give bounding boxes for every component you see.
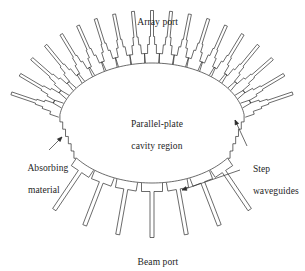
step-waveguide bbox=[219, 44, 259, 90]
step-waveguide bbox=[31, 58, 76, 99]
step-waveguide bbox=[44, 44, 84, 90]
cavity-region-text-line2: cavity region bbox=[131, 141, 182, 151]
cavity-region-label: Parallel-plate cavity region bbox=[100, 108, 204, 163]
cavity-region-text-line1: Parallel-plate bbox=[131, 119, 183, 129]
beam-port-label: Beam port bbox=[113, 246, 193, 271]
beam-port-waveguide bbox=[190, 171, 221, 226]
beam-port-waveguide bbox=[83, 171, 114, 226]
beam-port-text: Beam port bbox=[138, 257, 179, 267]
step-waveguide bbox=[228, 58, 273, 99]
step-waveguides-text-line2: waveguides bbox=[253, 186, 299, 196]
step-waveguides-label: Step waveguides bbox=[243, 153, 305, 208]
beam-port-waveguide bbox=[142, 183, 163, 238]
step-waveguides-upper-arrowhead bbox=[235, 120, 239, 125]
absorbing-material-text-line1: Absorbing bbox=[27, 163, 68, 173]
array-port-text: Array port bbox=[137, 17, 178, 27]
absorbing-material-text-line2: material bbox=[28, 185, 60, 195]
beam-port-waveguide bbox=[115, 179, 137, 235]
step-waveguides-text-line1: Step bbox=[253, 164, 270, 174]
absorbing-material-label: Absorbing material bbox=[18, 152, 84, 207]
array-port-label: Array port bbox=[111, 6, 195, 39]
